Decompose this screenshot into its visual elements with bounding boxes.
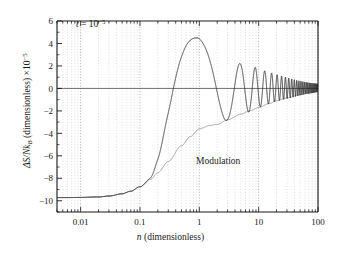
y-tick-label: −2 (43, 106, 53, 116)
annotation-t-value: t = 10−5 (76, 18, 106, 29)
x-tick-label: 1 (197, 217, 202, 227)
y-axis-label-main: ΔS/Nk (22, 145, 32, 169)
x-tick-label: 10 (254, 217, 264, 227)
y-tick-label: 4 (49, 39, 54, 49)
y-axis-label: ΔS/NkB (dimensionless) ×10−5 (21, 11, 32, 211)
chart-plot-area: 0.010.1110100 6420−2−4−6−8−10 (0, 0, 341, 258)
t-equals: = 10 (79, 19, 99, 29)
x-tick-label: 0.01 (73, 217, 89, 227)
y-tick-label: −6 (43, 151, 53, 161)
x-tick-label: 100 (311, 217, 325, 227)
x-tick-label: 0.1 (134, 217, 145, 227)
y-tick-label: 0 (49, 84, 54, 94)
x-axis-label: n (dimensionless) (0, 232, 341, 242)
y-tick-label: −8 (43, 173, 53, 183)
y-axis-label-subscript: B (26, 140, 33, 144)
y-tick-label: 2 (49, 61, 54, 71)
y-tick-label: −10 (39, 196, 54, 206)
chart-figure: 0.010.1110100 6420−2−4−6−8−10 t = 10−5 M… (0, 0, 341, 258)
y-tick-label: 6 (49, 16, 54, 26)
annotation-modulation-label: Modulation (196, 156, 240, 166)
y-axis-label-exponent: −5 (21, 53, 28, 60)
t-exponent: −5 (98, 18, 105, 25)
y-tick-label: −4 (43, 129, 53, 139)
y-axis-label-rest: (dimensionless) ×10 (22, 61, 32, 141)
x-axis-label-rest: (dimensionless) (142, 232, 205, 242)
